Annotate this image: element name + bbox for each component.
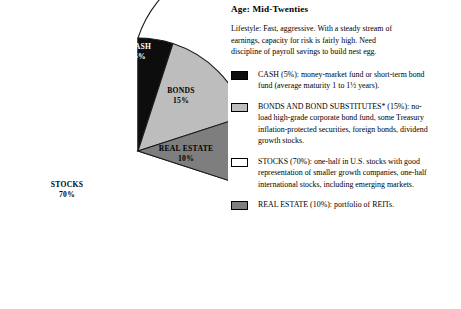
legend-swatch-cash-icon bbox=[231, 71, 248, 80]
pie-label-bonds: BONDS 15% bbox=[158, 86, 204, 107]
legend-swatch-bonds-icon bbox=[231, 103, 248, 112]
legend-item-bonds: BONDS AND BOND SUBSTITUTES* (15%): no-lo… bbox=[231, 101, 455, 147]
pie-label-real-estate: REAL ESTATE 10% bbox=[148, 144, 224, 165]
pie-label-bonds-percent: 15% bbox=[158, 96, 204, 106]
lifestyle-description: Lifestyle: Fast, aggressive. With a stea… bbox=[231, 23, 407, 58]
info-panel: Age: Mid-Twenties Lifestyle: Fast, aggre… bbox=[228, 0, 461, 309]
pie-label-bonds-name: BONDS bbox=[167, 86, 195, 95]
pie-label-real-estate-name: REAL ESTATE bbox=[159, 144, 214, 153]
legend-item-stocks: STOCKS (70%): one-half in U.S. stocks wi… bbox=[231, 156, 455, 191]
pie-label-cash-name: CASH bbox=[129, 42, 151, 51]
pie-chart-panel: CASH 5% BONDS 15% REAL ESTATE 10% STOCKS… bbox=[0, 0, 228, 309]
pie-label-stocks-name: STOCKS bbox=[51, 180, 83, 189]
legend-item-cash: CASH (5%): money-market fund or short-te… bbox=[231, 69, 455, 92]
pie-label-real-estate-percent: 10% bbox=[148, 154, 224, 164]
pie-label-cash-percent: 5% bbox=[118, 52, 162, 62]
pie-label-stocks: STOCKS 70% bbox=[30, 180, 104, 201]
legend-swatch-stocks-icon bbox=[231, 158, 248, 167]
legend-swatch-real-estate-icon bbox=[231, 201, 248, 210]
pie-label-stocks-percent: 70% bbox=[30, 190, 104, 200]
legend-item-real-estate: REAL ESTATE (10%): portfolio of REITs. bbox=[231, 199, 455, 211]
legend-text-bonds: BONDS AND BOND SUBSTITUTES* (15%): no-lo… bbox=[258, 101, 434, 147]
legend-text-stocks: STOCKS (70%): one-half in U.S. stocks wi… bbox=[258, 156, 434, 191]
pie-label-cash: CASH 5% bbox=[118, 42, 162, 63]
legend-text-real-estate: REAL ESTATE (10%): portfolio of REITs. bbox=[258, 199, 434, 211]
age-title: Age: Mid-Twenties bbox=[231, 4, 455, 14]
legend-text-cash: CASH (5%): money-market fund or short-te… bbox=[258, 69, 434, 92]
